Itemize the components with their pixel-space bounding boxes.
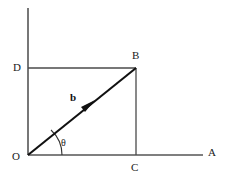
angle-label-theta: θ [61,138,66,148]
point-label-d: D [13,62,21,73]
point-label-a: A [208,147,216,158]
diagram-canvas [0,0,235,180]
vector-label-b: b [70,92,76,103]
point-label-b-vertex: B [132,50,139,61]
vector-diagram: O A B C D b θ [0,0,235,180]
point-label-c: C [131,162,138,173]
point-label-o: O [12,151,20,162]
vector-line-ob [28,68,136,155]
